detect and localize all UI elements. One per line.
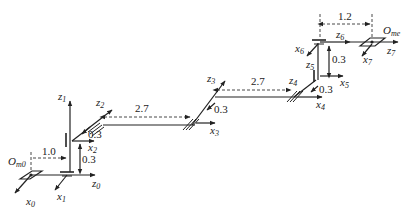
x0-label: x0 [25,195,35,209]
x1-axis [55,175,67,190]
z4-axis [294,80,316,97]
dim-link1-label: 2.7 [135,102,149,114]
dim-j3-offset-label: 0.3 [214,103,228,115]
x2-label: x2 [87,141,97,155]
x1-label: x1 [56,190,66,204]
z4-label: z4 [288,74,297,88]
dim-j4-offset-label: 0.3 [319,83,333,95]
dim-1.0-label: 1.0 [42,145,56,157]
dim-link2-label: 2.7 [251,75,265,87]
x6-axis [307,44,318,56]
z7-label: z7 [386,44,396,58]
end-origin-label: Ome [383,24,401,38]
z0-label: z0 [91,177,100,191]
base-origin-label: Om0 [8,155,26,169]
z5-label: z5 [305,58,314,72]
z6-label: z6 [335,28,344,42]
x7-label: x7 [362,53,373,67]
x5-label: x5 [339,76,349,90]
link-1: 2.7 [103,102,199,130]
dim-j5-height-label: 0.3 [332,53,346,65]
z3-label: z3 [206,72,215,86]
dim-j2-offset-label: 0.3 [88,128,102,140]
joint-3: z3 x3 0.3 [192,72,228,138]
dim-end-offset-label: 1.2 [338,10,352,22]
z1-label: z1 [57,90,66,104]
robot-kinematic-diagram: Om0 x0 z0 1.0 x1 z1 0.3 x2 z2 [0,0,411,215]
dim-j4-offset [311,86,318,92]
x6-label: x6 [294,42,304,56]
x4-label: x4 [315,98,325,112]
x3-label: x3 [209,124,219,138]
z2-label: z2 [95,96,104,110]
